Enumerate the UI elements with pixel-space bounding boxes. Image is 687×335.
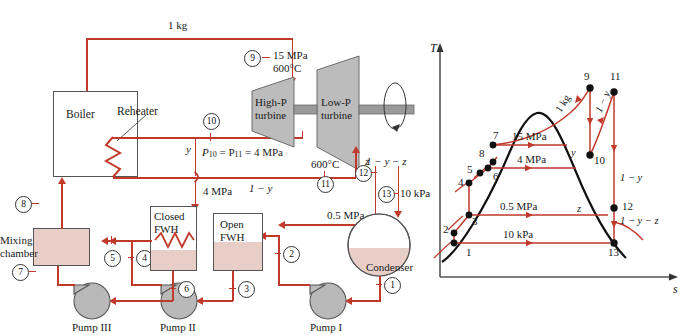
- pipe-1kg-horizontal: [86, 38, 293, 40]
- ts-flow-label-z: z: [577, 204, 581, 215]
- curve-tail-state2: [448, 216, 463, 230]
- ts-state-label-1: 1: [466, 247, 472, 258]
- state-circle-9: 9: [244, 50, 261, 67]
- state-circle-11: 11: [317, 176, 334, 193]
- ts-isobar-label-15mpa: 15 MPa: [512, 131, 547, 142]
- ts-state-label-3: 3: [472, 216, 478, 227]
- pump1-label: Pump I: [310, 322, 342, 333]
- lp-turbine-label-line2: turbine: [321, 110, 352, 121]
- label-y-fraction: y: [186, 144, 191, 155]
- pipe-mixing-to-boiler: [61, 183, 63, 229]
- pipe-to-pump2-inlet: [199, 300, 233, 302]
- pipe-hp-exhaust: [302, 131, 304, 138]
- pipe-to-pump1-inlet: [348, 300, 380, 302]
- tick-state-8: [32, 203, 39, 204]
- label-one-minus-y-minus-z-schematic: 1 − y − z: [366, 156, 407, 167]
- tick-state-3: [229, 288, 236, 289]
- pipe-state2-riser: [278, 235, 280, 285]
- ts-point-12: [610, 204, 617, 211]
- arrow-state5-into-mixing: [101, 237, 108, 245]
- state-circle-10: 10: [203, 113, 220, 130]
- figure-root: 1 kg Boiler Reheater y 4 MPa P10 = P11 =…: [0, 0, 687, 335]
- pipe-z-to-open-fwh: [281, 224, 376, 226]
- ts-state-label-7: 7: [493, 130, 499, 141]
- ts-point-8: [490, 159, 497, 166]
- state-circle-2: 2: [283, 246, 300, 263]
- ts-state-label-6: 6: [493, 171, 499, 182]
- state-circle-8: 8: [15, 196, 32, 213]
- ts-flow-label-y: y: [571, 148, 576, 159]
- label-eq-mid: = P: [217, 146, 235, 158]
- label-p-symbol-1: P: [202, 146, 209, 158]
- ts-flow-label-1-y-right: 1 − y: [620, 173, 642, 184]
- arrow-into-pump3: [109, 297, 116, 305]
- ts-isobar-label-05mpa: 0.5 MPa: [500, 201, 537, 212]
- ts-state-label-12: 12: [622, 201, 633, 212]
- ts-state-label-11: 11: [610, 71, 621, 82]
- pump3-label: Pump III: [72, 322, 111, 333]
- process-11-13: [611, 92, 617, 243]
- arrow-into-pump2: [196, 297, 203, 305]
- ts-point-5: [477, 170, 484, 177]
- pipe-boiler-top-riser: [86, 38, 88, 91]
- pipe-lp-exhaust-to-condenser: [398, 166, 400, 213]
- state-circle-6: 6: [178, 281, 195, 298]
- mixing-chamber-label-line2: chamber: [0, 248, 38, 259]
- ts-axes: [437, 43, 679, 281]
- ts-point-7: [490, 142, 497, 149]
- ts-state-label-10: 10: [594, 155, 605, 166]
- ts-state-label-5: 5: [467, 164, 473, 175]
- tick-state-13: [394, 193, 399, 194]
- closed-fwh-label-line1: Closed: [154, 211, 185, 222]
- pipe-pump2-outlet: [131, 284, 162, 286]
- ts-point-10: [586, 151, 593, 158]
- open-fwh-label-line2: FWH: [220, 232, 244, 243]
- arrow-into-open-fwh: [278, 221, 285, 229]
- arrow-into-hp-turbine: [288, 78, 296, 85]
- tick-state-11: [324, 171, 325, 177]
- boiler-box: [53, 91, 138, 177]
- ts-state-label-9: 9: [584, 71, 590, 82]
- ts-point-6: [485, 165, 492, 172]
- boiler-label: Boiler: [66, 109, 95, 121]
- label-05mpa-schematic: 0.5 MPa: [327, 210, 364, 221]
- pipe-closed-fwh-drain: [172, 271, 174, 301]
- open-fwh-label-line1: Open: [220, 219, 244, 230]
- pipe-condenser-to-pump1: [379, 276, 381, 302]
- pipe-state10-to-reheater: [113, 137, 303, 139]
- label-600c-reheat: 600°C: [311, 159, 339, 170]
- label-eq-tail: = 4 MPa: [242, 146, 283, 158]
- pump2-label: Pump II: [160, 322, 196, 333]
- pipe-pump1-outlet: [278, 284, 310, 286]
- isobar-05mpa: [469, 212, 608, 218]
- state-circle-12: 12: [355, 165, 372, 182]
- process-9-10: [587, 88, 593, 155]
- tick-state-6: [169, 288, 176, 289]
- ts-state-label-2: 2: [443, 224, 449, 235]
- label-one-minus-y-schematic: 1 − y: [249, 183, 272, 194]
- closed-fwh-label-line2: FWH: [154, 224, 178, 235]
- label-mass-1kg: 1 kg: [168, 20, 187, 31]
- tick-state-4: [128, 257, 134, 258]
- pipe-pump3-outlet: [57, 284, 75, 286]
- state-circle-1: 1: [384, 277, 401, 294]
- pipe-state4-riser: [131, 240, 133, 285]
- ts-axis-label-s: s: [673, 283, 678, 295]
- state-circle-3: 3: [238, 281, 255, 298]
- label-reheat-pressure: P10 = P11 = 4 MPa: [202, 147, 283, 159]
- state-circle-13: 13: [378, 186, 395, 203]
- pipe-y-extraction-drop: [195, 137, 197, 176]
- label-10kpa-schematic: 10 kPa: [400, 188, 430, 199]
- ts-point-2: [451, 230, 458, 237]
- state-circle-7: 7: [12, 264, 29, 281]
- ts-point-1: [451, 240, 458, 247]
- reheater-label: Reheater: [117, 106, 158, 118]
- arrow-into-condenser: [394, 211, 402, 218]
- tick-state-1: [376, 284, 382, 285]
- state-circle-5: 5: [104, 250, 121, 267]
- condenser-label: Condenser: [366, 262, 413, 273]
- ts-flow-label-1-y-z: 1 − y − z: [620, 216, 659, 227]
- ts-state-label-4: 4: [458, 177, 464, 188]
- tick-state-5: [111, 236, 112, 244]
- arrow-into-lp-turbine: [352, 146, 360, 153]
